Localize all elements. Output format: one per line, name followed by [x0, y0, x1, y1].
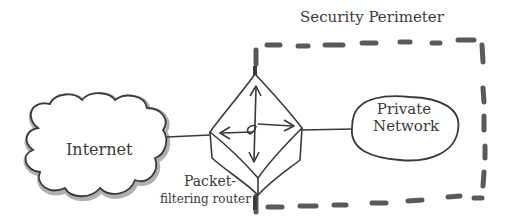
private-network-label-line1: Private [377, 100, 431, 118]
internet-label: Internet [66, 140, 132, 159]
network-diagram: Security Perimeter Internet Private Netw… [0, 0, 516, 221]
router-private-link [302, 129, 352, 130]
router-label-line2: filtering router [160, 190, 250, 208]
private-network-label: Private Network [373, 101, 435, 135]
router-label-line1: Packet- [184, 173, 236, 189]
router-label: Packet- filtering router [170, 172, 250, 208]
private-network-label-line2: Network [373, 117, 439, 135]
diagram-graphics [0, 0, 516, 221]
security-perimeter-label: Security Perimeter [300, 8, 444, 26]
internet-router-link [167, 135, 210, 137]
